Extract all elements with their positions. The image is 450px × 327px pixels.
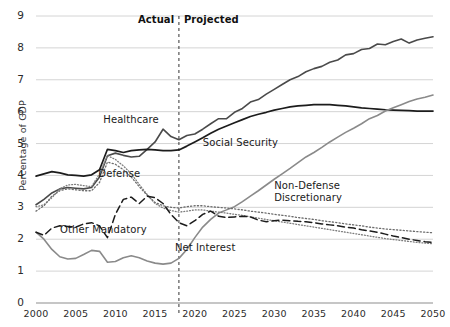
y-axis-tick: 0 (2, 296, 24, 308)
series-label-healthcare: Healthcare (103, 114, 159, 125)
series-label-non-defense-discretionary: Non-Defense Discretionary (274, 180, 360, 205)
x-axis-tick: 2035 (294, 308, 334, 319)
x-axis-tick: 2050 (413, 308, 450, 319)
series-line-healthcare (36, 37, 433, 205)
x-axis-tick: 2015 (135, 308, 175, 319)
x-axis-tick: 2045 (373, 308, 413, 319)
series-line-other-mandatory (36, 196, 433, 242)
series-line-net-interest (36, 95, 433, 264)
y-axis-tick: 2 (2, 232, 24, 244)
y-axis-tick: 9 (2, 9, 24, 21)
x-axis-tick: 2040 (334, 308, 374, 319)
y-axis-tick: 6 (2, 105, 24, 117)
series-label-social-security: Social Security (203, 137, 278, 148)
y-axis-tick: 1 (2, 264, 24, 276)
series-label-net-interest: Net Interest (175, 242, 235, 253)
divider-label-projected: Projected (184, 14, 239, 25)
y-axis-tick: 4 (2, 168, 24, 180)
series-label-defense: Defense (98, 168, 140, 179)
y-axis-tick: 3 (2, 200, 24, 212)
y-axis-tick: 8 (2, 41, 24, 53)
divider-label-actual: Actual (138, 14, 174, 25)
series-label-other-mandatory: Other Mandatory (60, 224, 147, 235)
x-axis-tick: 2025 (215, 308, 255, 319)
y-axis-tick: 7 (2, 73, 24, 85)
x-axis-tick: 2010 (95, 308, 135, 319)
x-axis-tick: 2000 (16, 308, 56, 319)
x-axis-tick: 2005 (56, 308, 96, 319)
x-axis-tick: 2030 (254, 308, 294, 319)
y-axis-tick: 5 (2, 137, 24, 149)
x-axis-tick: 2020 (175, 308, 215, 319)
